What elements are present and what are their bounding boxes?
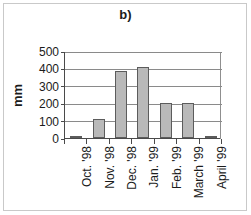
bar-slot xyxy=(110,51,132,138)
bar xyxy=(115,71,127,138)
bar-slot xyxy=(87,51,109,138)
chart-title: b) xyxy=(0,7,251,22)
x-axis-tick-label: April '99 xyxy=(216,146,228,189)
bar xyxy=(93,119,105,138)
bar xyxy=(205,136,217,138)
y-axis-tick-label: 300 xyxy=(39,80,59,94)
x-label-slot: April '99 xyxy=(199,146,221,208)
x-label-slot: Dec. '98 xyxy=(109,146,131,208)
x-label-slot: March '99 xyxy=(176,146,198,208)
x-label-slot: Nov. '98 xyxy=(86,146,108,208)
x-label-slot: Jan. '99 xyxy=(131,146,153,208)
x-axis-tick xyxy=(221,139,222,144)
bar-series xyxy=(65,51,222,138)
bar xyxy=(182,103,194,138)
y-axis-title-label: mm xyxy=(11,84,26,107)
x-axis-tick xyxy=(176,139,177,144)
x-axis-tick xyxy=(64,139,65,144)
y-axis-tick-label: 0 xyxy=(52,132,59,146)
bar xyxy=(137,67,149,138)
y-axis-tick-label: 500 xyxy=(39,45,59,59)
y-axis-tick-label: 400 xyxy=(39,62,59,76)
x-axis-tick xyxy=(86,139,87,144)
x-axis-tick xyxy=(109,139,110,144)
x-axis-tick xyxy=(154,139,155,144)
bar xyxy=(160,103,172,138)
y-axis-tick-label: 200 xyxy=(39,97,59,111)
y-axis-title: mm xyxy=(9,52,27,139)
bar-slot xyxy=(200,51,222,138)
x-label-slot: Feb. '99 xyxy=(154,146,176,208)
figure-panel: b) mm 0100200300400500 Oct. '98Nov. '98D… xyxy=(0,0,251,215)
bar xyxy=(70,136,82,138)
x-axis-labels: Oct. '98Nov. '98Dec. '98Jan. '99Feb. '99… xyxy=(64,146,221,208)
plot-area: 0100200300400500 xyxy=(64,52,221,139)
x-label-slot: Oct. '98 xyxy=(64,146,86,208)
bar-slot xyxy=(65,51,87,138)
y-axis-tick-label: 100 xyxy=(39,115,59,129)
x-axis-tick xyxy=(131,139,132,144)
bar-slot xyxy=(155,51,177,138)
bar-slot xyxy=(177,51,199,138)
bar-slot xyxy=(132,51,154,138)
x-axis-ticks xyxy=(64,139,221,144)
x-axis-tick xyxy=(199,139,200,144)
